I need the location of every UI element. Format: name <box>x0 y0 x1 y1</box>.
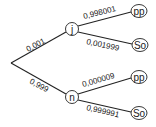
node-j-so-label: So <box>134 40 147 51</box>
node-j-pp-label: pp <box>133 6 145 17</box>
edge-label-root-n: 0,999 <box>28 77 50 95</box>
node-n-so: So <box>131 107 147 120</box>
node-n-label: n <box>69 92 75 103</box>
node-j-label: j <box>70 24 73 35</box>
edge-label-root-j: 0,001 <box>25 36 47 54</box>
node-n-so-label: So <box>133 108 146 119</box>
edge-label-n-pp: 0,000009 <box>81 71 116 89</box>
node-n-pp-label: pp <box>133 72 145 83</box>
node-j: j <box>66 23 79 36</box>
node-j-pp: pp <box>131 5 147 18</box>
edge-label-j-pp: 0,998001 <box>82 4 117 21</box>
edge-label-j-so: 0,001999 <box>86 37 121 53</box>
node-n: n <box>66 91 79 104</box>
probability-tree: 0,001 0,999 0,998001 0,001999 0,000009 0… <box>0 0 156 127</box>
node-j-so: So <box>132 39 148 52</box>
node-n-pp: pp <box>131 71 147 84</box>
